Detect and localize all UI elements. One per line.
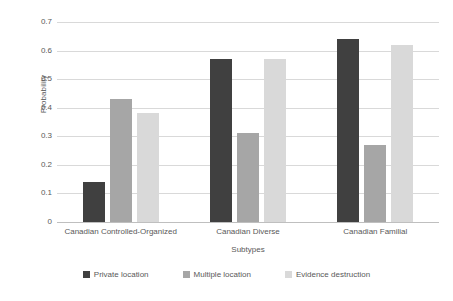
y-axis-tick-label: 0.2 [12,161,52,169]
y-axis-tick-label: 0 [12,218,52,226]
bar [391,45,413,222]
bar-chart: Probability 0.70.60.50.40.30.20.10 Canad… [0,0,453,301]
x-axis-category-label: Canadian Controlled-Organized [57,227,184,236]
bar [364,145,386,222]
y-axis-tick-label: 0.3 [12,132,52,140]
y-axis-tick-label: 0.7 [12,18,52,26]
bar-group [57,22,184,222]
legend-item[interactable]: Evidence destruction [285,270,370,279]
x-axis-title: Subtypes [57,245,439,254]
legend-label: Multiple location [194,270,251,279]
bar [264,59,286,222]
bar [137,113,159,222]
legend-label: Evidence destruction [296,270,370,279]
x-axis-category-label: Canadian Diverse [184,227,311,236]
plot-area [57,22,439,222]
bar [110,99,132,222]
legend-swatch-icon [83,271,90,278]
bar [237,133,259,222]
y-axis-tick-label: 0.5 [12,75,52,83]
bar-group [184,22,311,222]
y-axis-tick-label: 0.1 [12,189,52,197]
legend-item[interactable]: Multiple location [183,270,251,279]
legend-swatch-icon [285,271,292,278]
bar [83,182,105,222]
gridline [57,222,439,223]
bar [337,39,359,222]
legend-swatch-icon [183,271,190,278]
x-axis-category-labels: Canadian Controlled-OrganizedCanadian Di… [57,227,439,241]
y-axis-tick-label: 0.6 [12,47,52,55]
bar [210,59,232,222]
legend-item[interactable]: Private location [83,270,149,279]
x-axis-category-label: Canadian Familial [312,227,439,236]
bar-group [312,22,439,222]
y-axis-tick-label: 0.4 [12,104,52,112]
legend-label: Private location [94,270,149,279]
y-axis-tick-labels: 0.70.60.50.40.30.20.10 [8,22,52,222]
chart-legend: Private locationMultiple locationEvidenc… [0,270,453,279]
